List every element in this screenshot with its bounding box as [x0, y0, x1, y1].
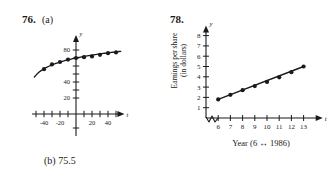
y-tick-label: 5 [197, 63, 201, 71]
x-tick-label: 13 [300, 123, 308, 131]
data-point [98, 53, 102, 57]
y-axis-label-line-2: (in dollars) [179, 24, 188, 98]
problem-78-y-axis-label: Earnings per share (in dollars) [171, 24, 188, 98]
problem-78-x-axis-caption: Year (6 ↔ 1986) [196, 138, 326, 148]
problem-78-block: 78. Earnings per share (in dollars) 6789… [166, 0, 331, 180]
y-tick-label: 4 [197, 73, 201, 81]
x-tick-label: 10 [264, 123, 272, 131]
x-tick-label: 6 [216, 123, 220, 131]
y-tick-label: 80 [64, 46, 71, 53]
y-tick-label: 3 [197, 84, 201, 92]
data-point [90, 54, 94, 58]
axis-break-icon [206, 116, 218, 122]
x-tick-label: 9 [253, 123, 257, 131]
x-axis-name: t [126, 111, 128, 118]
problem-76-chart-svg: -40-202040204080ty [18, 22, 166, 140]
y-tick-label: 8 [197, 32, 201, 40]
x-tick-label: 40 [105, 119, 112, 126]
data-point [58, 60, 62, 64]
data-point [216, 97, 220, 101]
data-point [277, 75, 281, 79]
data-point [114, 50, 118, 54]
axes-group [203, 25, 323, 122]
data-point [228, 93, 232, 97]
data-point [50, 62, 54, 66]
y-tick-label: 7 [197, 42, 201, 50]
data-point [66, 58, 70, 62]
problem-76-chart: -40-202040204080ty [18, 22, 166, 140]
x-tick-label: 11 [276, 123, 283, 131]
y-tick-label: 20 [64, 94, 71, 101]
data-point [42, 67, 46, 71]
x-tick-label: -40 [40, 119, 49, 126]
data-point [302, 64, 306, 68]
x-tick-label: 8 [241, 123, 245, 131]
data-points [42, 50, 118, 71]
data-point [265, 80, 269, 84]
data-point [241, 88, 245, 92]
y-axis-name: y [79, 30, 83, 37]
data-point [82, 55, 86, 59]
problem-76-part-b-answer: (b) 75.5 [44, 155, 76, 166]
x-axis-name: t [325, 115, 328, 123]
y-tick-label: 40 [64, 78, 71, 85]
problem-78-chart: 67891011121312345678ty [192, 18, 328, 134]
y-tick-label: 6 [197, 53, 201, 61]
x-tick-label: 12 [288, 123, 296, 131]
x-tick-label: 7 [229, 123, 233, 131]
y-tick-label: 1 [197, 104, 201, 112]
data-point [106, 51, 110, 55]
problem-78-chart-svg: 67891011121312345678ty [192, 18, 328, 134]
data-point [289, 70, 293, 74]
problem-76-block: 76. (a) -40-202040204080ty (b) 75.5 [0, 0, 166, 180]
x-tick-label: -20 [56, 119, 65, 126]
tick-labels: 67891011121312345678ty [197, 20, 328, 130]
data-point [74, 56, 78, 60]
data-point [253, 84, 257, 88]
y-axis-name: y [209, 20, 214, 28]
x-tick-label: 20 [89, 119, 96, 126]
y-tick-label: 2 [197, 94, 201, 102]
textbook-answer-page: 76. (a) -40-202040204080ty (b) 75.5 78. … [0, 0, 331, 180]
